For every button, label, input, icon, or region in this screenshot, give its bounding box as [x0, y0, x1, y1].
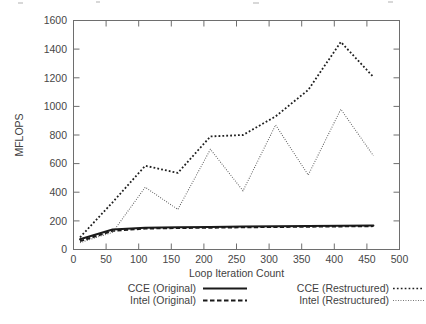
x-tick-label: 100	[130, 253, 148, 265]
legend-label-intel-restructured: Intel (Restructured)	[299, 294, 389, 306]
x-tick-label: 50	[100, 253, 112, 265]
scan-noise	[18, 1, 393, 4]
x-tick-label: 450	[358, 253, 376, 265]
x-tick-label: 300	[260, 253, 278, 265]
chart-figure: 0 200 400 600 800 1000 1200 1400 1600 0 …	[0, 0, 426, 324]
x-tick-label: 400	[326, 253, 344, 265]
x-tick-label: 200	[195, 253, 213, 265]
x-axis-title: Loop Iteration Count	[189, 267, 284, 279]
y-tick-label: 200	[49, 215, 67, 227]
y-tick-label: 800	[49, 129, 67, 141]
y-tick-label: 1400	[44, 43, 68, 55]
x-tick-label: 350	[293, 253, 311, 265]
chart-legend: CCE (Original) Intel (Original) CCE (Res…	[128, 282, 424, 306]
y-tick-label: 1200	[44, 72, 68, 84]
x-tick-label: 150	[163, 253, 181, 265]
y-tick-label: 400	[49, 186, 67, 198]
y-tick-label: 1000	[44, 100, 68, 112]
y-tick-label: 1600	[44, 14, 68, 26]
series-line-cce-restructured	[80, 42, 373, 237]
series-line-cce-original	[80, 225, 373, 239]
legend-label-intel-original: Intel (Original)	[130, 294, 196, 306]
y-tick-label: 0	[61, 243, 67, 255]
plot-frame	[74, 21, 400, 250]
data-series-layer	[80, 42, 373, 243]
legend-label-cce-original: CCE (Original)	[128, 282, 196, 294]
line-chart: 0 200 400 600 800 1000 1200 1400 1600 0 …	[0, 0, 426, 324]
y-axis-ticks	[74, 49, 400, 249]
legend-label-cce-restructured: CCE (Restructured)	[297, 282, 389, 294]
x-tick-labels: 0 50 100 150 200 250 300 350 400 450 500	[71, 253, 409, 265]
x-axis-ticks	[74, 21, 400, 250]
x-tick-label: 500	[391, 253, 409, 265]
series-line-intel-restructured	[80, 109, 373, 242]
y-tick-label: 600	[49, 157, 67, 169]
y-tick-labels: 0 200 400 600 800 1000 1200 1400 1600	[44, 14, 68, 255]
x-tick-label: 0	[71, 253, 77, 265]
y-axis-title: MFLOPS	[13, 113, 25, 156]
x-tick-label: 250	[228, 253, 246, 265]
